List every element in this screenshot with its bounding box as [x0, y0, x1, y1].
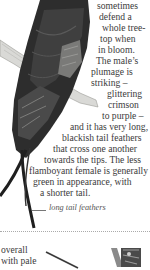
- body-text-line: crimson: [108, 99, 139, 110]
- body-text-line: whole tree-: [102, 22, 145, 33]
- body-text-line: to purple –: [102, 110, 144, 121]
- body-text-line: a shorter tail.: [40, 187, 90, 198]
- body-text-line: and it has very long,: [70, 121, 148, 132]
- body-text-line: green in appearance, with: [33, 176, 132, 187]
- body-text-line: flamboyant female is generally: [29, 165, 148, 176]
- section-divider: [0, 231, 150, 232]
- bird-thumbnail: [111, 246, 143, 267]
- branch-illustration: [40, 250, 80, 270]
- annotation-label: long tail feathers: [49, 203, 106, 212]
- next-section-text-line: overall: [1, 244, 28, 255]
- annotation-leader-line: [32, 210, 46, 211]
- body-text-line: in bloom.: [98, 44, 135, 55]
- body-text-line: defend a: [99, 11, 132, 22]
- body-text-line: The male’s: [96, 55, 138, 66]
- body-text-line: sometimes: [97, 0, 138, 11]
- body-text-line: glittering: [107, 88, 142, 99]
- body-text-line: plumage is: [91, 66, 133, 77]
- next-section-text-line: with pale: [1, 255, 36, 266]
- body-text-line: striking –: [91, 77, 128, 88]
- body-text-line: blackish tail feathers: [62, 132, 141, 143]
- body-text-line: top when: [100, 33, 135, 44]
- body-text-line: towards the tips. The less: [44, 154, 141, 165]
- body-text-line: that cross one another: [53, 143, 137, 154]
